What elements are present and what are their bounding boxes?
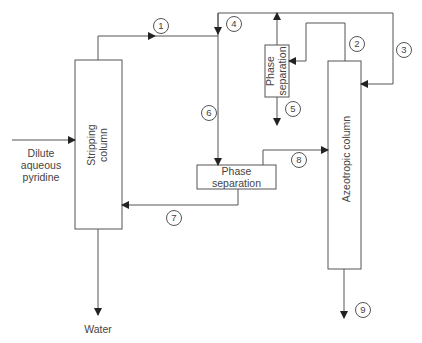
phase-separation-top-line1: Phase [264, 43, 276, 99]
stream-8-label: 8 [291, 152, 307, 168]
stream-4-label: 4 [226, 16, 242, 32]
stream-5-label: 5 [285, 101, 301, 117]
water-label: Water [78, 323, 118, 335]
phase-separation-top-line2: separation [276, 43, 288, 99]
feed-label-line1: Dilute [12, 147, 70, 159]
stream-6-label: 6 [201, 105, 217, 121]
feed-label-line2: aqueous [12, 159, 70, 171]
stripping-column-label: Stripping column [85, 113, 111, 177]
stripping-column-label-line2: column [97, 113, 109, 177]
azeotropic-column-label: Azeotropic column [340, 109, 352, 209]
phase-separation-bottom-line1: Phase [197, 165, 276, 177]
phase-separation-bottom-label: Phase separation [197, 165, 276, 189]
stream-2-label: 2 [349, 36, 365, 52]
phase-separation-bottom-line2: separation [197, 177, 276, 189]
stream-9-label: 9 [355, 302, 371, 318]
feed-label-line3: pyridine [12, 171, 70, 183]
stripping-column-label-line1: Stripping [85, 113, 97, 177]
stream-1-label: 1 [153, 18, 169, 34]
stream-3-label: 3 [396, 42, 412, 58]
phase-separation-top-label: Phase separation [264, 43, 290, 99]
stream-7-label: 7 [166, 210, 182, 226]
feed-label: Dilute aqueous pyridine [12, 147, 70, 183]
